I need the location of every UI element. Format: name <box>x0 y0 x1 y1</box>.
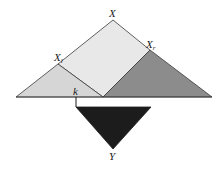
label-left-sub: l <box>61 57 63 65</box>
tree-split-diagram: X Xl Xr k Y <box>0 0 224 174</box>
bottom-y-triangle <box>76 107 151 149</box>
label-left-xl: Xl <box>53 51 63 65</box>
label-right-xr: Xr <box>145 38 156 52</box>
label-root-x: X <box>108 7 117 19</box>
label-right-sub: r <box>153 44 156 52</box>
label-bottom-y: Y <box>109 150 117 162</box>
